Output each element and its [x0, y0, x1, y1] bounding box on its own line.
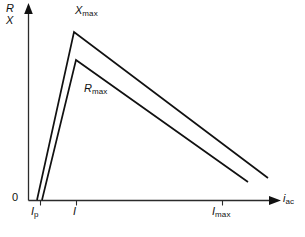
y-axis-label: R X	[6, 3, 14, 27]
curve-rmax	[42, 60, 248, 200]
y-axis-arrowhead	[24, 3, 33, 14]
tick-label-imax: Imax	[212, 206, 230, 219]
x-axis-label: iac	[283, 193, 294, 206]
plot-canvas	[0, 0, 305, 237]
origin-label: 0	[12, 192, 18, 203]
figure-container: R X 0 iac Ip I Imax Xmax Rmax	[0, 0, 305, 237]
tick-label-imax-sub: max	[215, 210, 230, 219]
curve-label-xmax: Xmax	[75, 5, 98, 18]
curve-xmax	[37, 32, 268, 200]
x-axis-arrowhead	[269, 196, 281, 205]
curve-label-xmax-sub: max	[82, 9, 97, 18]
x-axis-label-sub: ac	[285, 197, 294, 206]
tick-label-i-main: I	[73, 205, 76, 217]
tick-label-i: I	[73, 206, 76, 219]
y-axis-label-line2: X	[6, 15, 14, 27]
tick-label-ip: Ip	[31, 206, 39, 219]
curve-label-rmax: Rmax	[84, 83, 107, 96]
curve-label-rmax-sub: max	[92, 87, 107, 96]
tick-label-ip-sub: p	[34, 210, 39, 219]
curve-label-rmax-main: R	[84, 82, 92, 94]
